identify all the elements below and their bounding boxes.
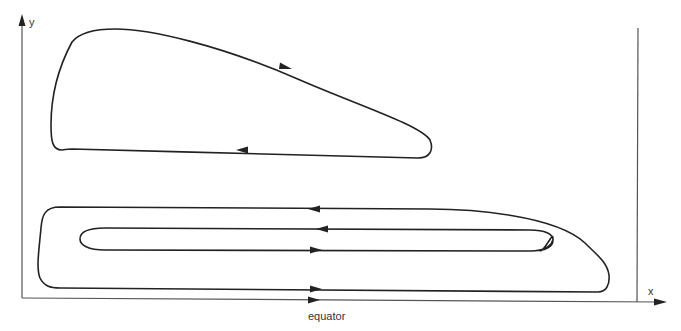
upper-cell-arrow-top-icon: [279, 63, 292, 70]
inner-cell-arrow-bottom-icon: [310, 247, 322, 254]
inner-cell-arrow-top-icon: [316, 226, 328, 233]
y-axis-arrow-icon: [19, 14, 26, 26]
upper-cell: [51, 29, 432, 158]
upper-cell-arrow-bottom-icon: [236, 147, 248, 154]
outer-cell-arrow-bottom-icon: [310, 286, 322, 293]
x-axis: [22, 298, 660, 302]
y-axis-label: y: [29, 16, 35, 28]
equator-arrow-icon: [308, 297, 320, 304]
right-boundary: [637, 28, 638, 302]
circulation-diagram: y x equator: [0, 0, 681, 331]
inner-lower-cell: [80, 228, 553, 251]
x-axis-arrow-icon: [654, 299, 667, 306]
x-axis-label: x: [648, 285, 654, 297]
equator-label: equator: [308, 310, 346, 322]
outer-cell-arrow-top-icon: [308, 206, 320, 213]
